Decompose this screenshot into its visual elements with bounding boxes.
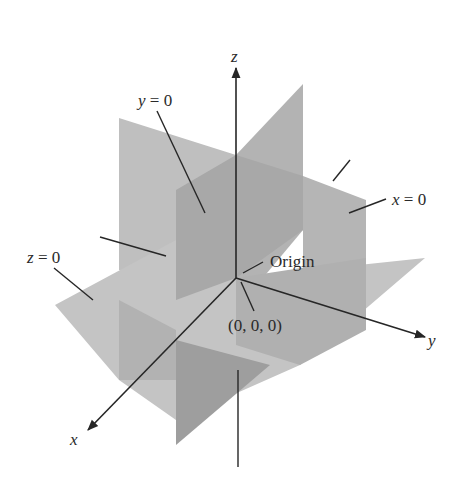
x-axis-label: x bbox=[69, 430, 78, 449]
plane-y0-label: y = 0 bbox=[136, 91, 172, 110]
leader-x0-back bbox=[333, 160, 350, 181]
z-axis-label: z bbox=[230, 47, 238, 66]
plane-z0-label: z = 0 bbox=[26, 248, 60, 267]
coordinate-planes-diagram: z y x y = 0 x = 0 z = 0 Origin (0, 0, 0) bbox=[0, 0, 464, 490]
origin-label: Origin bbox=[270, 252, 315, 271]
y-axis-label: y bbox=[426, 331, 436, 350]
origin-coords-label: (0, 0, 0) bbox=[228, 316, 282, 335]
plane-x0-label: x = 0 bbox=[391, 190, 426, 209]
